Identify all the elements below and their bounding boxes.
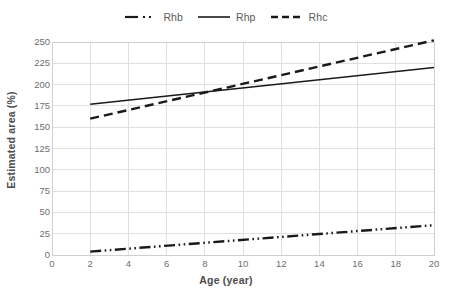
data-series-layer — [90, 40, 434, 251]
chart-container: Rhb Rhp Rhc Estimated area (%) 250 225 — [0, 0, 452, 297]
series-line-rhp — [90, 68, 434, 105]
series-line-rhb — [90, 225, 434, 251]
plot-area — [0, 0, 452, 297]
series-line-rhc — [90, 40, 434, 118]
